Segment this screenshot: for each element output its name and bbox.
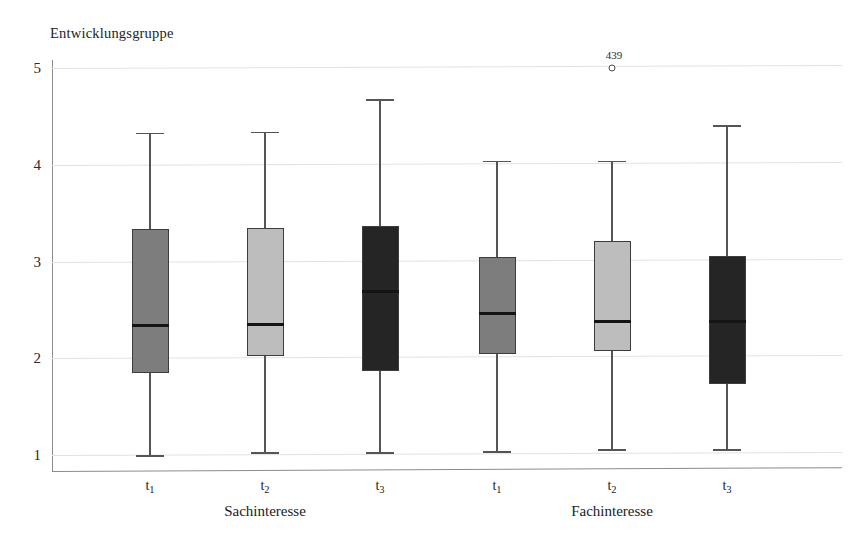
upper-whisker-cap: [483, 161, 511, 163]
median-line: [479, 312, 516, 315]
lower-whisker: [726, 384, 727, 449]
gridline-5: [52, 65, 842, 69]
y-axis-tick-label: 5: [34, 60, 42, 77]
boxplot-chart: Entwicklungsgruppe 12345t1t2t3t1439t2t3S…: [0, 0, 855, 536]
outlier-point[interactable]: [609, 65, 616, 72]
y-axis-tick-label: 4: [34, 156, 42, 173]
y-axis-tick-label: 1: [34, 447, 42, 464]
group-label-fachinteresse: Fachinteresse: [571, 503, 653, 520]
upper-whisker: [611, 161, 612, 241]
median-line: [362, 290, 399, 293]
x-axis-tick-label-fachinteresse-t3: t3: [722, 478, 731, 494]
median-line: [247, 323, 284, 326]
box-iqr: [362, 226, 399, 371]
y-axis-tick-label: 3: [34, 253, 42, 270]
upper-whisker: [149, 133, 150, 229]
y-axis-tick-label: 2: [34, 350, 42, 367]
upper-whisker-cap: [136, 133, 164, 135]
x-axis-tick-label-sachinteresse-t3: t3: [375, 478, 384, 494]
x-axis-tick-label-fachinteresse-t1: t1: [492, 478, 501, 494]
lower-whisker-cap: [136, 455, 164, 457]
lower-whisker-cap: [251, 452, 279, 454]
x-axis-tick-label-fachinteresse-t2: t2: [607, 478, 616, 494]
outlier-label: 439: [606, 49, 623, 61]
upper-whisker-cap: [713, 125, 741, 127]
upper-whisker-cap: [251, 132, 279, 134]
lower-whisker-cap: [598, 449, 626, 451]
box-iqr: [594, 241, 631, 351]
chart-title: Entwicklungsgruppe: [50, 25, 174, 42]
upper-whisker: [726, 125, 727, 256]
lower-whisker-cap: [713, 449, 741, 451]
upper-whisker: [264, 132, 265, 228]
upper-whisker-cap: [366, 99, 394, 101]
lower-whisker: [611, 351, 612, 449]
box-iqr: [247, 228, 284, 357]
lower-whisker: [496, 354, 497, 451]
gridline-4: [52, 162, 842, 166]
x-axis-tick-label-sachinteresse-t2: t2: [260, 478, 269, 494]
x-axis-tick-label-sachinteresse-t1: t1: [145, 478, 154, 494]
median-line: [594, 320, 631, 323]
median-line: [709, 320, 746, 323]
lower-whisker: [149, 373, 150, 455]
gridline-1: [52, 452, 842, 456]
box-iqr: [479, 257, 516, 355]
lower-whisker: [264, 356, 265, 452]
upper-whisker-cap: [598, 161, 626, 163]
lower-whisker: [379, 371, 380, 452]
lower-whisker-cap: [483, 451, 511, 453]
upper-whisker: [496, 161, 497, 257]
lower-whisker-cap: [366, 452, 394, 454]
upper-whisker: [379, 99, 380, 226]
y-axis-line: [52, 60, 53, 472]
median-line: [132, 324, 169, 327]
box-iqr: [132, 229, 169, 373]
plot-area: 12345t1t2t3t1439t2t3SachinteresseFachint…: [52, 60, 842, 472]
group-label-sachinteresse: Sachinteresse: [224, 503, 306, 520]
x-axis-line: [52, 467, 842, 472]
